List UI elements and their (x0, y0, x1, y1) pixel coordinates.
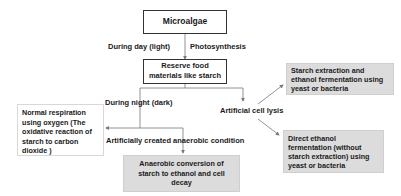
edge-label-anaerobic-condition: Artificially created anaerobic condition (106, 136, 244, 145)
node-anaerobic-label: Anaerobic conversion of starch to ethano… (138, 159, 225, 187)
node-direct-ethanol: Direct ethanol fermentation (without sta… (283, 130, 384, 173)
node-reserve-food: Reserve food materials like starch (143, 59, 227, 84)
node-microalgae-label: Microalgae (163, 16, 207, 26)
edge-label-photosynthesis: Photosynthesis (190, 42, 246, 51)
node-microalgae: Microalgae (143, 10, 227, 34)
arrow-starch-extraction (258, 85, 283, 104)
node-normal-respiration-label: Normal respiration using oxygen (The oxi… (22, 108, 92, 155)
node-direct-ethanol-label: Direct ethanol fermentation (without sta… (288, 134, 369, 170)
node-starch-extraction: Starch extraction and ethanol fermentati… (286, 63, 394, 95)
node-reserve-line1: Reserve food (144, 61, 226, 71)
node-reserve-line2: materials like starch (144, 71, 226, 81)
edge-label-night: During night (dark) (105, 98, 173, 107)
arrow-direct-ethanol (258, 119, 279, 135)
edge-label-cell-lysis: Artificial cell lysis (220, 106, 283, 115)
node-starch-extraction-label: Starch extraction and ethanol fermentati… (291, 66, 383, 93)
node-normal-respiration: Normal respiration using oxygen (The oxi… (17, 104, 104, 156)
edge-label-day: During day (light) (108, 42, 170, 51)
node-anaerobic-conversion: Anaerobic conversion of starch to ethano… (123, 155, 240, 192)
